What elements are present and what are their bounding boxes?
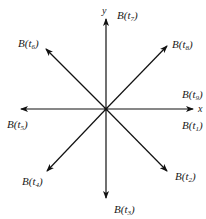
vector-t6-arrow	[46, 49, 106, 109]
label-b-t8: B(t8)	[172, 38, 193, 52]
origin-point	[104, 107, 107, 110]
label-b-t4: B(t4)	[22, 175, 43, 189]
rotating-vector-diagram: y x B(t1) B(t2) B(t3) B(t4) B(t5) B(t6) …	[0, 0, 206, 219]
y-axis-label: y	[101, 5, 107, 16]
label-b-t7: B(t7)	[117, 9, 138, 23]
vector-t4-arrow	[47, 109, 106, 171]
x-axis-label: x	[197, 103, 203, 114]
label-b-t6: B(t6)	[18, 37, 39, 51]
label-b-t2: B(t2)	[175, 170, 196, 184]
label-b-t3: B(t3)	[114, 203, 135, 217]
label-b-t1: B(t1)	[182, 119, 203, 133]
label-b-t5: B(t5)	[7, 118, 28, 132]
vector-t2-arrow	[106, 109, 167, 171]
label-b-t9: B(t9)	[182, 88, 203, 102]
vector-t8-arrow	[106, 46, 167, 109]
